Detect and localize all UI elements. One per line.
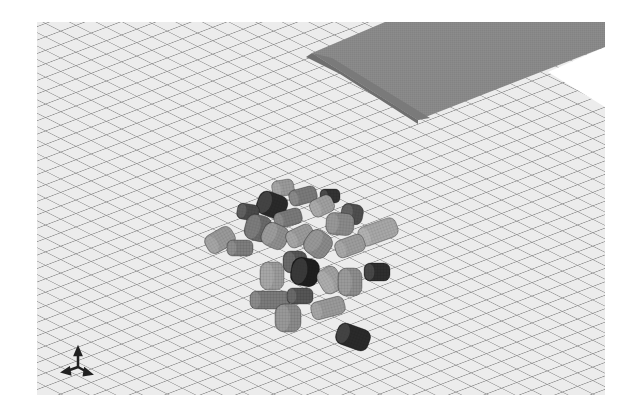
cylinder [227, 240, 253, 256]
cylinder [338, 268, 362, 296]
cylinder [287, 288, 313, 304]
cylinder [364, 263, 390, 281]
cylinder [260, 262, 284, 290]
simulation-scene [0, 0, 640, 416]
cylinder [275, 304, 301, 332]
cylinder [325, 212, 355, 236]
